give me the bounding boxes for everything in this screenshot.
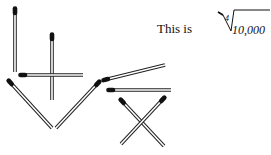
match-head-icon — [104, 79, 108, 80]
matchstick-d — [9, 81, 52, 128]
matchstick-figure — [0, 0, 271, 155]
match-head-icon — [121, 100, 124, 103]
match-head-icon — [9, 81, 12, 84]
radical-index: 4 — [225, 14, 229, 23]
matchsticks-group — [9, 9, 171, 147]
caption-text: This is — [157, 21, 192, 37]
matchstick-e — [56, 82, 99, 128]
matchstick-f — [104, 65, 165, 80]
match-head-icon — [161, 98, 164, 101]
match-head-icon — [96, 82, 99, 85]
radicand-value: 10,000 — [232, 23, 265, 38]
